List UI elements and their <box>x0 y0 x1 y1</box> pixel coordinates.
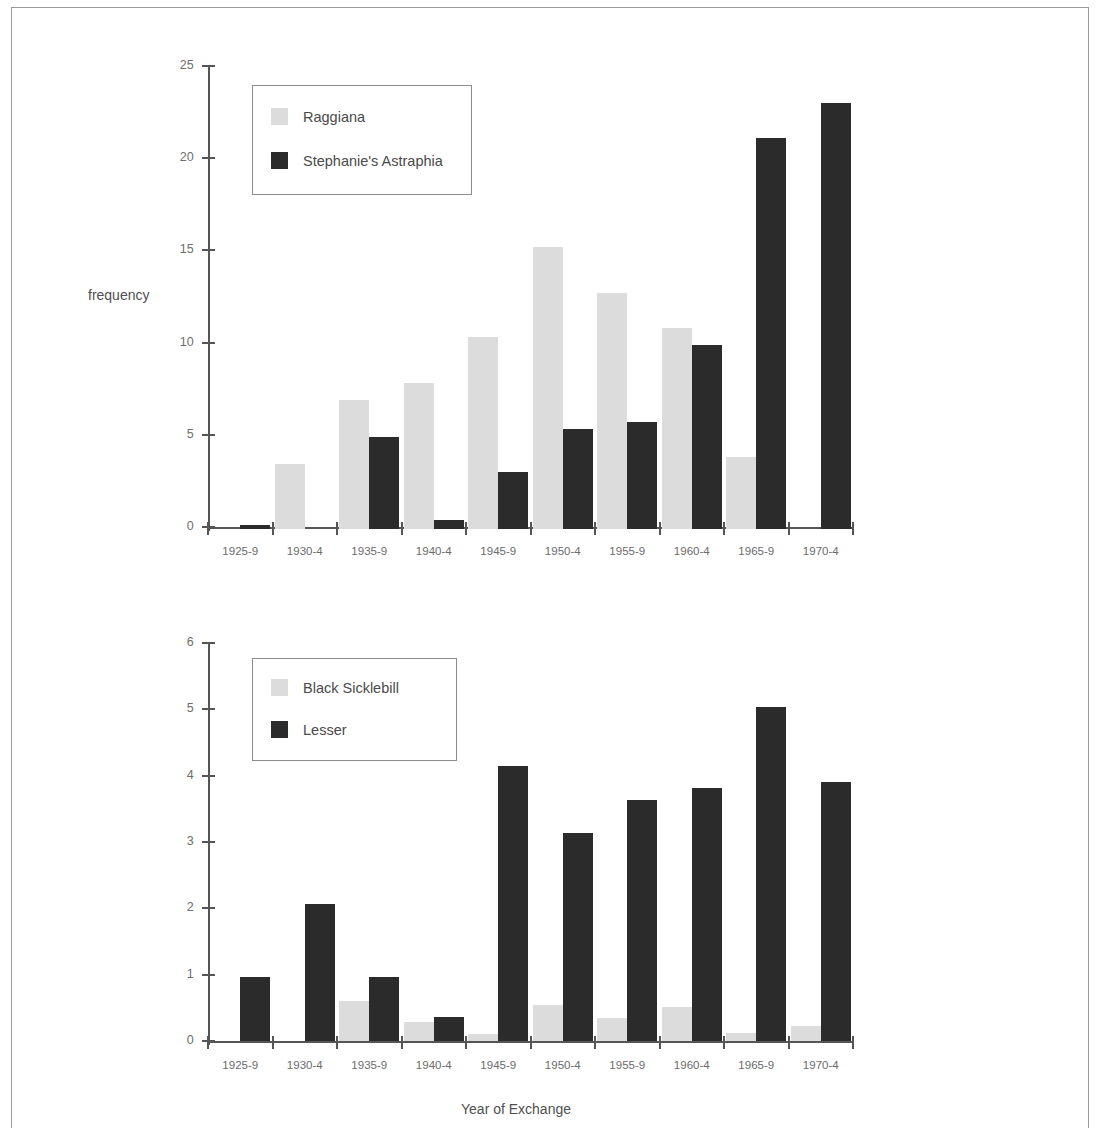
bar <box>597 293 627 529</box>
legend-entry-lesser: Lesser <box>271 721 347 738</box>
bar <box>726 457 756 529</box>
chart-top: frequency 0510152025 1925-91930-41935-91… <box>12 8 1090 588</box>
bar <box>339 400 369 529</box>
bar <box>404 1022 434 1041</box>
y-tick-label: 5 <box>150 701 194 715</box>
legend-label-stephanies-astraphia: Stephanie's Astraphia <box>303 153 443 169</box>
legend-top: Raggiana Stephanie's Astraphia <box>252 85 472 195</box>
bar <box>369 977 399 1041</box>
bar <box>369 437 399 529</box>
y-tick-label: 20 <box>150 150 194 164</box>
bar <box>498 766 528 1041</box>
y-tick-label: 10 <box>150 335 194 349</box>
y-tick-label: 0 <box>150 519 194 533</box>
bar <box>692 345 722 529</box>
bar <box>563 833 593 1041</box>
chart-bottom: 0123456 1925-91930-41935-91940-41945-919… <box>12 608 1090 1128</box>
bar <box>726 1033 756 1041</box>
bar <box>434 520 464 529</box>
legend-entry-stephanies-astraphia: Stephanie's Astraphia <box>271 152 443 169</box>
legend-label-raggiana: Raggiana <box>303 109 365 125</box>
legend-swatch-dark-icon <box>271 721 288 738</box>
bar <box>662 1007 692 1041</box>
x-tick-label: 1970-4 <box>776 1059 866 1071</box>
bar <box>468 1034 498 1041</box>
bar <box>404 383 434 529</box>
bar <box>791 1026 821 1041</box>
bar <box>468 337 498 529</box>
legend-bottom: Black Sicklebill Lesser <box>252 658 457 761</box>
bar <box>821 103 851 529</box>
legend-swatch-light-icon <box>271 108 288 125</box>
bar <box>498 472 528 529</box>
bar <box>275 464 305 529</box>
bar <box>821 782 851 1041</box>
bar <box>339 1001 369 1041</box>
bar <box>305 904 335 1041</box>
legend-entry-raggiana: Raggiana <box>271 108 365 125</box>
legend-swatch-dark-icon <box>271 152 288 169</box>
bar <box>662 328 692 529</box>
bar <box>627 800 657 1041</box>
legend-label-black-sicklebill: Black Sicklebill <box>303 680 399 696</box>
y-tick-label: 1 <box>150 967 194 981</box>
y-tick-label: 3 <box>150 834 194 848</box>
figure-frame: frequency 0510152025 1925-91930-41935-91… <box>11 7 1089 1128</box>
bar <box>756 707 786 1041</box>
bar <box>597 1018 627 1041</box>
legend-entry-black-sicklebill: Black Sicklebill <box>271 679 399 696</box>
y-tick-label: 6 <box>150 635 194 649</box>
y-axis-title-top: frequency <box>88 287 149 303</box>
bar <box>692 788 722 1041</box>
y-tick-label: 4 <box>150 768 194 782</box>
y-tick-label: 2 <box>150 900 194 914</box>
bar <box>563 429 593 529</box>
bar <box>756 138 786 529</box>
x-tick-label: 1970-4 <box>776 545 866 557</box>
bar <box>240 525 270 529</box>
y-tick-label: 25 <box>150 58 194 72</box>
x-axis-title: Year of Exchange <box>461 1101 571 1117</box>
y-tick-label: 5 <box>150 427 194 441</box>
y-tick-label: 15 <box>150 242 194 256</box>
y-tick-label: 0 <box>150 1033 194 1047</box>
bar <box>434 1017 464 1041</box>
bar <box>240 977 270 1041</box>
legend-label-lesser: Lesser <box>303 722 347 738</box>
bar <box>533 247 563 529</box>
bar <box>627 422 657 529</box>
legend-swatch-light-icon <box>271 679 288 696</box>
bar <box>533 1005 563 1041</box>
